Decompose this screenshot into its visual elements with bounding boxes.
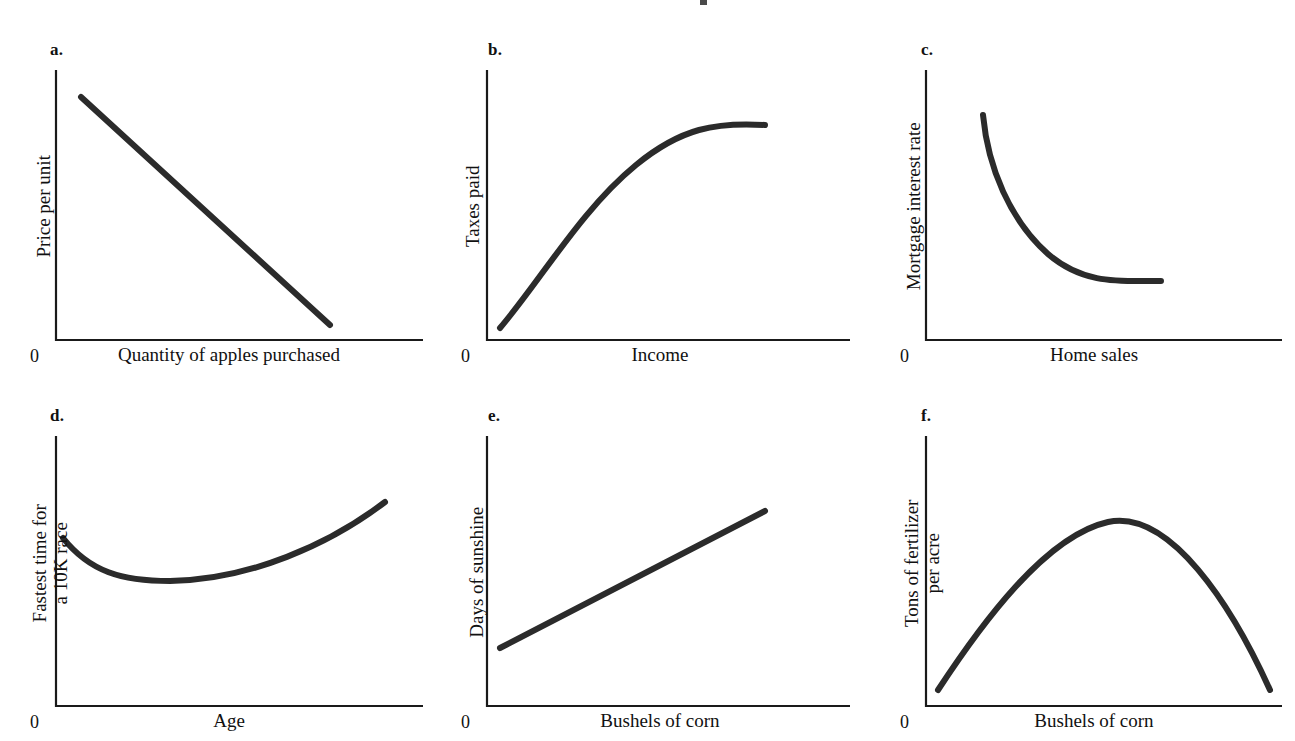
panel-a-axes bbox=[56, 70, 423, 340]
panel-d-y-label-line1: Fastest time for bbox=[29, 504, 50, 622]
panel-c-origin-label: 0 bbox=[900, 347, 909, 365]
panel-f-y-label-line1: Tons of fertilizer bbox=[901, 500, 922, 627]
panel-f-axes bbox=[926, 436, 1282, 706]
panel-c-plot bbox=[870, 0, 1295, 380]
panel-e-curve bbox=[500, 511, 765, 648]
panel-a-y-label: Price per unit bbox=[34, 126, 55, 286]
panel-a-x-label: Quantity of apples purchased bbox=[64, 345, 394, 366]
panel-d-origin-label: 0 bbox=[30, 713, 39, 731]
panel-f-y-label: Tons of fertilizer per acre bbox=[901, 458, 944, 668]
panel-c-y-label: Mortgage interest rate bbox=[904, 96, 925, 316]
panel-f-x-label: Bushels of corn bbox=[934, 711, 1254, 732]
panel-f-curve bbox=[938, 521, 1270, 690]
panel-f-origin-label: 0 bbox=[900, 713, 909, 731]
panel-c-x-label: Home sales bbox=[934, 345, 1254, 366]
panel-c-curve bbox=[983, 115, 1161, 281]
panel-d-letter: d. bbox=[50, 407, 64, 424]
panel-d: d. 0 Age Fastest time for a 10K race bbox=[0, 366, 440, 741]
panel-c-letter: c. bbox=[921, 41, 933, 58]
panel-c-axes bbox=[926, 70, 1282, 340]
panel-d-x-label: Age bbox=[64, 711, 394, 732]
panel-a: a. 0 Quantity of apples purchased Price … bbox=[0, 0, 440, 380]
panel-e-axes bbox=[487, 436, 850, 706]
six-panel-graph-figure: a. 0 Quantity of apples purchased Price … bbox=[0, 0, 1295, 741]
panel-d-y-label: Fastest time for a 10K race bbox=[29, 458, 72, 668]
panel-a-plot bbox=[0, 0, 440, 380]
panel-f: f. 0 Bushels of corn Tons of fertilizer … bbox=[870, 366, 1295, 741]
panel-e-origin-label: 0 bbox=[461, 713, 470, 731]
panel-c: c. 0 Home sales Mortgage interest rate bbox=[870, 0, 1295, 380]
panel-b-curve bbox=[500, 124, 765, 328]
panel-d-curve bbox=[63, 502, 385, 581]
panel-a-origin-label: 0 bbox=[30, 347, 39, 365]
panel-e-x-label: Bushels of corn bbox=[495, 711, 825, 732]
panel-f-y-label-line2: per acre bbox=[922, 533, 943, 594]
panel-e: e. 0 Bushels of corn Days of sunshine bbox=[431, 366, 871, 741]
panel-a-letter: a. bbox=[50, 41, 63, 58]
panel-b-letter: b. bbox=[488, 41, 502, 58]
panel-b-y-label: Taxes paid bbox=[463, 126, 484, 286]
panel-e-letter: e. bbox=[488, 407, 500, 424]
panel-a-curve bbox=[81, 97, 330, 325]
panel-d-y-label-line2: a 10K race bbox=[50, 522, 71, 604]
panel-b: b. 0 Income Taxes paid bbox=[431, 0, 871, 380]
panel-e-y-label: Days of sunshine bbox=[467, 482, 488, 662]
panel-f-letter: f. bbox=[921, 407, 931, 424]
panel-b-x-label: Income bbox=[495, 345, 825, 366]
panel-b-axes bbox=[487, 70, 850, 340]
panel-b-origin-label: 0 bbox=[461, 347, 470, 365]
